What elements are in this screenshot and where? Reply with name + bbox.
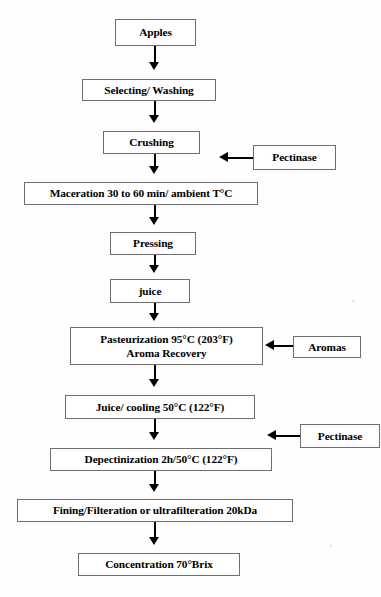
arrowhead-pectinase-to-maceration-icon (219, 152, 228, 162)
node-pasteurization-label-line1: Pasteurization 95°C (203°F) (100, 332, 232, 346)
node-depectinization: Depectinization 2h/50°C (122°F) (50, 448, 272, 471)
node-selecting-washing-label: Selecting/ Washing (104, 84, 193, 97)
input-node-pectinase-maceration: Pectinase (253, 145, 336, 170)
node-concentration-label: Concentration 70°Brix (105, 558, 213, 571)
connector-pectinase-to-depectinization (276, 435, 300, 438)
node-juice-cooling: Juice/ cooling 50°C (122°F) (65, 395, 255, 419)
arrowhead-cooling-to-depectinization-icon (149, 432, 159, 440)
node-crushing-label: Crushing (129, 136, 173, 149)
node-juice-label: juice (139, 285, 162, 298)
input-node-pectinase-maceration-label: Pectinase (272, 151, 316, 164)
node-pasteurization-label-line2: Aroma Recovery (126, 346, 206, 360)
node-fining-filteration: Fining/Filteration or ultrafilteration 2… (17, 499, 293, 522)
node-crushing: Crushing (103, 131, 200, 154)
arrowhead-apples-to-selecting-icon (149, 62, 159, 70)
arrowhead-crushing-to-maceration-icon (149, 166, 159, 174)
input-node-pectinase-depectinization: Pectinase (300, 424, 380, 448)
node-selecting-washing: Selecting/ Washing (82, 79, 216, 101)
node-juice: juice (110, 279, 190, 303)
arrowhead-pasteurization-to-cooling-icon (149, 379, 159, 387)
node-fining-filteration-label: Fining/Filteration or ultrafilteration 2… (53, 504, 257, 517)
connector-pectinase-to-maceration (228, 157, 253, 160)
node-juice-cooling-label: Juice/ cooling 50°C (122°F) (96, 401, 224, 414)
node-depectinization-label: Depectinization 2h/50°C (122°F) (85, 453, 238, 466)
scan-speck (352, 300, 354, 302)
arrowhead-maceration-to-pressing-icon (149, 217, 159, 225)
node-pressing: Pressing (110, 232, 196, 255)
node-concentration: Concentration 70°Brix (78, 553, 240, 576)
node-apples: Apples (115, 19, 196, 46)
scan-speck (330, 545, 332, 547)
arrowhead-fining-to-concentration-icon (149, 537, 159, 545)
node-pressing-label: Pressing (133, 237, 173, 250)
arrowhead-selecting-to-crushing-icon (149, 115, 159, 123)
arrowhead-juice-to-pasteurization-icon (149, 313, 159, 321)
node-apples-label: Apples (139, 26, 172, 39)
arrowhead-pressing-to-juice-icon (149, 265, 159, 273)
arrowhead-aromas-to-pasteurization-icon (265, 340, 274, 350)
input-node-aromas: Aromas (293, 336, 361, 358)
node-maceration-label: Maceration 30 to 60 min/ ambient T°C (50, 187, 233, 200)
arrowhead-pectinase-to-depectinization-icon (267, 430, 276, 440)
input-node-aromas-label: Aromas (308, 341, 345, 354)
connector-aromas-to-pasteurization (274, 345, 293, 348)
node-pasteurization: Pasteurization 95°C (203°F) Aroma Recove… (70, 327, 263, 365)
flowchart-page: Apples Selecting/ Washing Crushing Macer… (0, 0, 381, 597)
input-node-pectinase-depectinization-label: Pectinase (318, 430, 362, 443)
node-maceration: Maceration 30 to 60 min/ ambient T°C (24, 182, 258, 205)
arrowhead-depectinization-to-fining-icon (149, 484, 159, 492)
